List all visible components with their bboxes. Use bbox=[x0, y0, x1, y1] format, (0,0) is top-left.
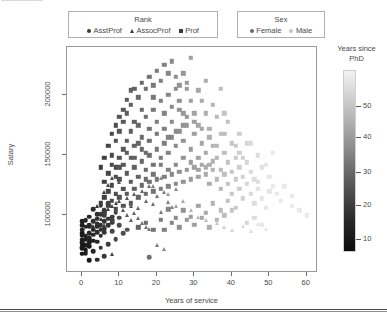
scatter-point bbox=[192, 131, 196, 135]
x-axis-title: Years of service bbox=[66, 296, 317, 305]
scatter-point bbox=[102, 223, 106, 227]
scatter-point bbox=[200, 127, 204, 131]
scatter-point bbox=[158, 218, 162, 222]
scatter-point bbox=[241, 196, 245, 200]
rank-legend-key-prof[interactable]: Prof bbox=[179, 25, 199, 36]
scatter-point bbox=[132, 187, 136, 191]
scatter-point bbox=[136, 141, 140, 145]
scatter-point bbox=[143, 167, 147, 171]
scatter-point bbox=[155, 194, 159, 198]
scatter-point bbox=[249, 229, 253, 233]
scatter-point bbox=[207, 135, 211, 139]
scatter-point bbox=[282, 184, 286, 188]
scatter-point bbox=[102, 211, 106, 215]
scatter-point bbox=[99, 217, 103, 221]
scatter-point bbox=[143, 177, 147, 181]
scatter-point bbox=[203, 78, 207, 82]
scatter-point bbox=[222, 131, 226, 135]
scatter-point bbox=[113, 139, 117, 143]
scatter-point bbox=[113, 123, 117, 127]
scatter-point bbox=[110, 252, 114, 256]
scatter-point bbox=[192, 223, 196, 227]
scatter-point bbox=[196, 88, 200, 92]
colorbar-tick bbox=[356, 172, 361, 173]
scatter-point bbox=[95, 257, 100, 262]
scatter-point bbox=[166, 184, 170, 188]
x-axis-tick-label: 0 bbox=[79, 279, 83, 287]
scatter-point bbox=[290, 194, 294, 198]
scatter-point bbox=[215, 143, 219, 147]
scatter-point bbox=[125, 151, 129, 155]
colorbar-tick-label: 50 bbox=[363, 102, 371, 110]
scatter-point bbox=[110, 131, 114, 135]
colorbar-tick-label: 30 bbox=[363, 168, 371, 176]
scatter-point bbox=[125, 213, 129, 217]
scatter-point bbox=[147, 75, 151, 79]
rank-legend-key-assocprof[interactable]: AssocProf bbox=[130, 25, 171, 36]
scatter-point bbox=[173, 182, 177, 186]
scatter-point bbox=[158, 163, 162, 167]
scatter-point bbox=[117, 165, 121, 169]
scatter-point bbox=[102, 230, 107, 235]
scatter-point bbox=[125, 227, 130, 232]
scatter-point bbox=[267, 175, 271, 179]
scatter-point bbox=[117, 115, 121, 119]
scatter-point bbox=[226, 182, 230, 186]
scatter-point bbox=[125, 111, 129, 115]
scatter-point bbox=[264, 227, 268, 231]
scatter-point bbox=[166, 135, 170, 139]
x-axis-tick-label: 40 bbox=[227, 279, 235, 287]
scatter-point bbox=[215, 218, 219, 222]
scatter-point bbox=[263, 163, 267, 167]
y-axis-tick bbox=[62, 214, 66, 215]
scatter-point bbox=[166, 93, 170, 97]
scatter-point bbox=[132, 211, 136, 215]
scatter-point bbox=[95, 239, 100, 244]
scatter-point bbox=[188, 99, 192, 103]
scatter-point bbox=[189, 208, 193, 212]
scatter-point bbox=[125, 98, 129, 102]
sex-legend: Sex FemaleMale bbox=[237, 11, 325, 38]
scatter-point bbox=[110, 218, 115, 223]
legend-marker-circle-icon bbox=[289, 29, 293, 33]
scatter-point bbox=[143, 220, 147, 224]
x-axis-tick bbox=[306, 272, 307, 276]
scatter-point bbox=[185, 87, 189, 91]
bottom-divider bbox=[0, 309, 387, 310]
chart-canvas: ~~~~~~~~~~~ Rank AsstProfAssocProfProf S… bbox=[0, 0, 387, 319]
scatter-point bbox=[173, 215, 177, 219]
sex-legend-key-male[interactable]: Male bbox=[289, 25, 312, 36]
colorbar-title-line2: PhD bbox=[326, 54, 387, 64]
scatter-point bbox=[241, 224, 245, 228]
scatter-point bbox=[218, 167, 222, 171]
scatter-point bbox=[215, 177, 219, 181]
rank-legend: Rank AsstProfAssocProfProf bbox=[68, 11, 218, 38]
rank-legend-key-asstprof[interactable]: AsstProf bbox=[87, 25, 122, 36]
scatter-point bbox=[87, 258, 92, 263]
scatter-point bbox=[230, 191, 234, 195]
scatter-point bbox=[218, 87, 222, 91]
scatter-point bbox=[155, 119, 159, 123]
y-axis-title: Salary bbox=[6, 144, 15, 165]
scatter-point bbox=[128, 88, 132, 92]
scatter-point bbox=[162, 228, 166, 232]
bottom-divider-secondary bbox=[0, 311, 387, 312]
scatter-point bbox=[151, 172, 155, 176]
scatter-point bbox=[233, 177, 237, 181]
scatter-point bbox=[128, 129, 132, 133]
scatter-point bbox=[136, 195, 140, 199]
scatter-point bbox=[196, 175, 200, 179]
scatter-point bbox=[192, 119, 196, 123]
scatter-point bbox=[117, 177, 121, 181]
scatter-point bbox=[166, 151, 170, 155]
scatter-point bbox=[162, 127, 166, 131]
scatter-point bbox=[230, 228, 234, 232]
scatter-point bbox=[128, 102, 132, 106]
scatter-point bbox=[87, 214, 92, 219]
scatter-point bbox=[140, 107, 144, 111]
sex-legend-key-female[interactable]: Female bbox=[250, 25, 282, 36]
scatter-point bbox=[203, 151, 207, 155]
scatter-point bbox=[132, 119, 136, 123]
scatter-point bbox=[241, 155, 245, 159]
colorbar-title: Years since PhD bbox=[326, 44, 387, 63]
